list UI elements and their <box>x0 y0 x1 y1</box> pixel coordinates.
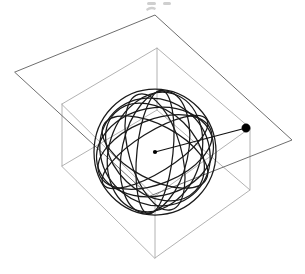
scan-speck-group <box>146 2 171 11</box>
figure-canvas <box>0 0 305 274</box>
scan-speck <box>146 7 156 11</box>
diagram-svg <box>0 0 305 274</box>
sphere-center-dot <box>153 150 157 154</box>
scan-speck <box>147 2 156 5</box>
plane-point-dot <box>242 124 250 132</box>
scan-speck <box>163 2 171 5</box>
